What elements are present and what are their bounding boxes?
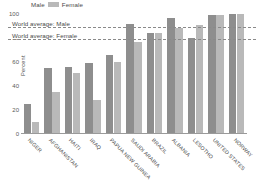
x-tick-cell: SAUDI ARABIA bbox=[124, 136, 145, 186]
y-tick-100: 100 bbox=[9, 11, 19, 17]
bar-male bbox=[147, 33, 155, 134]
legend-label-male: Male bbox=[31, 0, 45, 9]
bar-group bbox=[165, 14, 186, 134]
bar-male bbox=[106, 55, 114, 134]
y-tick-0: 0 bbox=[16, 131, 19, 137]
bar-male bbox=[24, 104, 32, 134]
x-tick-cell: NIGER bbox=[21, 136, 42, 186]
y-tick-40: 40 bbox=[12, 83, 19, 89]
bar-male bbox=[229, 14, 237, 134]
bar-female bbox=[134, 42, 142, 134]
bar-group bbox=[124, 14, 145, 134]
literacy-bar-chart: Male Female Percent 0 20 40 60 80 100 Wo… bbox=[0, 0, 257, 187]
bar-group bbox=[144, 14, 165, 134]
bar-female bbox=[155, 33, 163, 134]
x-tick-label: NORWAY bbox=[232, 137, 253, 158]
bar-female bbox=[216, 15, 224, 134]
reference-line-female bbox=[8, 39, 257, 40]
bar-group bbox=[83, 14, 104, 134]
axis-baseline bbox=[21, 133, 247, 134]
bar-male bbox=[44, 68, 52, 134]
x-tick-cell: NORWAY bbox=[226, 136, 247, 186]
bar-female bbox=[237, 14, 245, 134]
bar-female bbox=[114, 62, 122, 134]
x-axis-labels: NIGERAFGHANISTANHAITIIRAQPAPUA NEW GUINE… bbox=[21, 136, 247, 186]
bar-male bbox=[188, 38, 196, 134]
bar-male bbox=[167, 18, 175, 134]
x-tick-cell: PAPUA NEW GUINEA bbox=[103, 136, 124, 186]
reference-line-male bbox=[8, 27, 257, 28]
x-tick-cell: IRAQ bbox=[83, 136, 104, 186]
bar-female bbox=[175, 28, 183, 134]
x-tick-cell: ALBANIA bbox=[165, 136, 186, 186]
bar-male bbox=[85, 63, 93, 134]
bar-group bbox=[103, 14, 124, 134]
bar-group bbox=[206, 14, 227, 134]
x-tick-cell: UNITED STATES bbox=[206, 136, 227, 186]
legend-label-female: Female bbox=[62, 0, 83, 9]
legend-swatch-female bbox=[48, 2, 59, 8]
x-tick-label: IRAQ bbox=[89, 137, 103, 151]
reference-label-female: World average: Female bbox=[10, 32, 77, 39]
x-tick-label: HAITI bbox=[68, 137, 82, 151]
bar-female bbox=[196, 25, 204, 134]
bar-group bbox=[185, 14, 206, 134]
y-tick-60: 60 bbox=[12, 59, 19, 65]
x-tick-cell: HAITI bbox=[62, 136, 83, 186]
x-tick-cell: LESOTHO bbox=[185, 136, 206, 186]
plot-area: Percent 0 20 40 60 80 100 World average:… bbox=[21, 14, 247, 134]
bar-group bbox=[226, 14, 247, 134]
x-tick-cell: AFGHANISTAN bbox=[42, 136, 63, 186]
y-tick-20: 20 bbox=[12, 107, 19, 113]
bar-female bbox=[52, 92, 60, 134]
bar-male bbox=[208, 15, 216, 134]
reference-label-male: World average: Male bbox=[10, 20, 70, 27]
bar-female bbox=[73, 73, 81, 134]
chart-legend: Male Female bbox=[31, 0, 83, 9]
bar-male bbox=[65, 67, 73, 134]
x-tick-cell: BRAZIL bbox=[144, 136, 165, 186]
bar-female bbox=[93, 100, 101, 134]
